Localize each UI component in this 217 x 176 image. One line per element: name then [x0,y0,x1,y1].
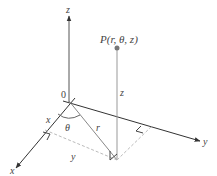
right-angle-mark-y [136,126,143,133]
theta-label: θ [65,122,70,133]
y-projection-dashed [45,130,117,160]
origin-label: 0 [61,89,66,100]
y-segment-label: y [70,151,76,162]
height-label: z [119,87,124,98]
x-axis-label: x [9,165,15,176]
right-angle-mark-x [43,132,50,140]
point-p [115,46,120,51]
y-axis [63,101,200,141]
x-projection-dashed [117,126,152,160]
diagram-svg: z P(r, θ, z) z 0 x θ r y x y [0,0,217,176]
radius-label: r [96,122,100,133]
y-axis-label: y [202,136,208,147]
x-segment-label: x [45,114,51,125]
z-axis-label: z [65,4,70,15]
point-label: P(r, θ, z) [99,33,138,46]
cylindrical-coordinates-diagram: z P(r, θ, z) z 0 x θ r y x y [0,0,217,176]
